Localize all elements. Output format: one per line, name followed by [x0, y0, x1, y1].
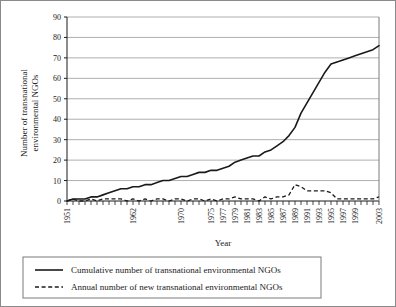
y-axis-tick-label: 20 [53, 156, 61, 165]
x-axis-tick-label: 1962 [129, 208, 138, 224]
y-axis-label-line2: environmental NGOs [30, 74, 40, 152]
y-axis-tick-label: 80 [53, 33, 61, 42]
series-line-annual [67, 185, 379, 201]
legend-label-cumulative: Cumulative number of transnational envir… [71, 265, 281, 275]
legend-label-annual: Annual number of new transnational envir… [71, 282, 283, 292]
x-axis-tick-label: 1995 [327, 208, 336, 224]
y-axis-label-line1: Number of transnational [19, 69, 29, 157]
figure-container: 0102030405060708090 19511962197019751977… [0, 0, 396, 307]
x-axis-tick-label: 1993 [315, 208, 324, 224]
x-axis-tick-label: 1975 [207, 208, 216, 224]
y-axis-tick-label: 30 [53, 136, 61, 145]
x-axis-tick-label: 1987 [279, 208, 288, 224]
x-axis-tick-label: 2003 [375, 208, 384, 224]
x-axis-ticks [67, 201, 379, 205]
x-axis-tick-label: 1999 [351, 208, 360, 224]
y-axis-tick-label: 90 [53, 13, 61, 22]
x-axis-tick-label: 1977 [219, 208, 228, 224]
x-axis-tick-label: 1970 [177, 208, 186, 224]
ngo-growth-chart: 0102030405060708090 19511962197019751977… [1, 1, 396, 307]
y-axis-tick-label: 50 [53, 95, 61, 104]
x-axis-tick-label: 1979 [231, 208, 240, 224]
y-axis-tick-label: 40 [53, 115, 61, 124]
y-axis-tick-label: 0 [57, 197, 61, 206]
y-axis-tick-label: 10 [53, 177, 61, 186]
x-axis-tick-label: 1997 [339, 208, 348, 224]
x-axis-label: Year [215, 238, 232, 248]
series-line-cumulative [67, 46, 379, 201]
x-axis-tick-label: 1989 [291, 208, 300, 224]
x-axis-tick-label: 1991 [303, 208, 312, 224]
gridlines [67, 17, 379, 181]
x-axis-tick-label: 1981 [243, 208, 252, 224]
x-axis-tick-label: 1985 [267, 208, 276, 224]
x-axis-tick-labels: 1951196219701975197719791981198319851987… [63, 208, 384, 224]
x-axis-tick-label: 1983 [255, 208, 264, 224]
x-axis-tick-label: 1951 [63, 208, 72, 224]
y-axis-tick-labels: 0102030405060708090 [53, 13, 61, 206]
y-axis-tick-label: 60 [53, 74, 61, 83]
y-axis-tick-label: 70 [53, 54, 61, 63]
